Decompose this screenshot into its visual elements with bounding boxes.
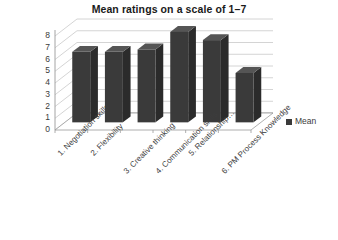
legend-entry-label: Mean <box>295 117 316 126</box>
chart-legend: Mean <box>286 117 316 126</box>
chart-container: Mean ratings on a scale of 1–7 876543210… <box>0 0 338 240</box>
legend-square-marker-icon <box>286 119 292 125</box>
x-label-2: 2. Flexibility <box>89 122 125 158</box>
x-label-4: 4. Communication skills <box>154 110 220 176</box>
